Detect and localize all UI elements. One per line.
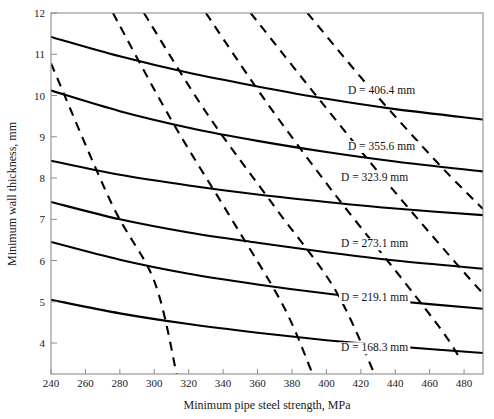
pipe-wall-thickness-chart: 240260280300320340360380400420440460480 … xyxy=(0,0,494,419)
y-tick-label: 9 xyxy=(40,131,46,143)
x-tick-label: 380 xyxy=(284,377,301,389)
curve-label: D = 355.6 mm xyxy=(346,140,417,153)
y-tick-label: 5 xyxy=(40,296,46,308)
y-tick-label: 10 xyxy=(34,90,46,102)
y-axis-title: Minimum wall thickness, mm xyxy=(5,121,19,266)
x-axis-title: Minimum pipe steel strength, MPa xyxy=(184,398,352,412)
y-tick-label: 4 xyxy=(40,337,46,349)
curve-label-text: D = 323.9 mm xyxy=(341,171,408,183)
curve-label-text: D = 355.6 mm xyxy=(348,140,415,152)
x-tick-label: 240 xyxy=(43,377,60,389)
curve-label-text: D = 168.3 mm xyxy=(341,341,408,353)
curve-label-text: D = 406.4 mm xyxy=(348,84,415,96)
curve-label: D = 168.3 mm xyxy=(339,341,410,354)
curve-label-text: D = 219.1 mm xyxy=(341,291,408,303)
y-tick-label: 7 xyxy=(40,213,46,225)
x-tick-label: 440 xyxy=(387,377,404,389)
x-tick-label: 260 xyxy=(77,377,94,389)
x-tick-label: 320 xyxy=(180,377,197,389)
y-tick-label: 8 xyxy=(40,172,46,184)
y-tick-label: 12 xyxy=(34,7,45,19)
chart-container: 240260280300320340360380400420440460480 … xyxy=(0,0,494,419)
y-tick-label: 6 xyxy=(40,255,46,267)
x-tick-label: 420 xyxy=(353,377,370,389)
x-tick-label: 280 xyxy=(112,377,129,389)
curve-label: D = 406.4 mm xyxy=(346,84,417,97)
x-tick-label: 340 xyxy=(215,377,232,389)
x-tick-label: 480 xyxy=(456,377,473,389)
y-tick-label: 11 xyxy=(34,48,45,60)
x-tick-label: 400 xyxy=(318,377,335,389)
curve-label-text: D = 273.1 mm xyxy=(341,237,408,249)
x-tick-label: 300 xyxy=(146,377,163,389)
x-tick-label: 360 xyxy=(249,377,266,389)
curve-label: D = 219.1 mm xyxy=(339,291,410,304)
curve-label: D = 273.1 mm xyxy=(339,237,410,250)
x-tick-label: 460 xyxy=(421,377,438,389)
curve-label: D = 323.9 mm xyxy=(339,171,410,184)
